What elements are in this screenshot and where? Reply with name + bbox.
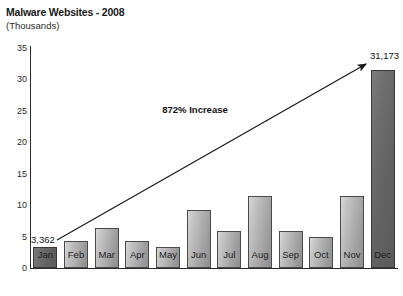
last-value-label: 31,173: [370, 50, 399, 61]
y-tick-label: 0: [3, 264, 27, 273]
y-tick-label: 25: [3, 107, 27, 116]
x-tick-label: Mar: [92, 249, 122, 260]
y-tick-label: 15: [3, 170, 27, 179]
bar-dec[interactable]: [371, 70, 395, 268]
x-tick-label: Feb: [61, 249, 91, 260]
first-value-label: 3,362: [31, 234, 55, 245]
x-tick-label: Jan: [30, 249, 60, 260]
y-axis-tick-labels: 35 30 25 20 15 10 5 0: [0, 0, 27, 296]
malware-websites-chart: Malware Websites - 2008 (Thousands) 35 3…: [0, 0, 403, 296]
x-tick-label: Nov: [337, 249, 367, 260]
x-tick-label: Aug: [245, 249, 275, 260]
y-tick-label: 20: [3, 138, 27, 147]
x-tick-label: Apr: [122, 249, 152, 260]
x-tick-label: Jun: [184, 249, 214, 260]
x-tick-label: Jul: [214, 249, 244, 260]
y-tick-label: 35: [3, 44, 27, 53]
x-tick-label: May: [153, 249, 183, 260]
x-tick-label: Oct: [306, 249, 336, 260]
x-tick-label: Sep: [276, 249, 306, 260]
y-tick-label: 30: [3, 75, 27, 84]
y-tick-label: 10: [3, 201, 27, 210]
increase-annotation-label: 872% Increase: [162, 104, 228, 115]
bars-layer: JanFebMarAprMayJunJulAugSepOctNovDec: [30, 0, 398, 296]
x-tick-label: Dec: [368, 249, 398, 260]
y-tick-label: 5: [3, 233, 27, 242]
